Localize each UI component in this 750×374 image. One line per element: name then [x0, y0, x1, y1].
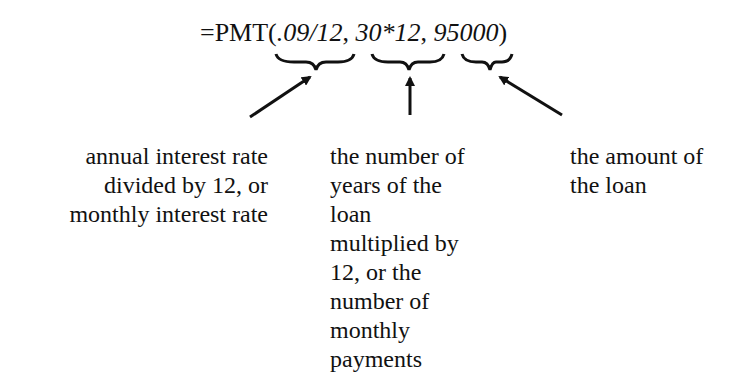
annotation-periods: the number of years of the loan multipli…: [330, 142, 480, 374]
annotation-line: the loan: [570, 171, 703, 200]
arrow-rate-icon: [250, 77, 310, 117]
annotation-line: annual interest rate: [69, 142, 268, 171]
annotation-line: multiplied by: [330, 229, 480, 258]
underbrace-amount-icon: [462, 54, 512, 70]
annotation-line: 12, or the: [330, 258, 480, 287]
annotation-line: years of the loan: [330, 171, 480, 229]
annotation-line: number of: [330, 287, 480, 316]
annotation-line: divided by 12, or: [69, 171, 268, 200]
underbrace-rate-icon: [276, 54, 354, 70]
annotation-line: the number of: [330, 142, 480, 171]
annotation-line: payments: [330, 345, 480, 374]
annotation-rate: annual interest rate divided by 12, or m…: [69, 142, 268, 229]
annotation-line: monthly: [330, 316, 480, 345]
annotation-line: the amount of: [570, 142, 703, 171]
annotation-amount: the amount of the loan: [570, 142, 703, 200]
underbrace-periods-icon: [372, 54, 444, 70]
arrow-amount-icon: [500, 77, 562, 115]
annotation-line: monthly interest rate: [69, 200, 268, 229]
